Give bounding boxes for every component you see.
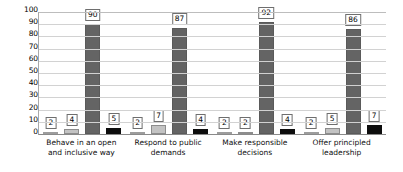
bar[interactable] — [217, 132, 232, 134]
gridline — [39, 36, 386, 37]
y-axis-tick-label: 30 — [14, 91, 38, 99]
gridline — [39, 110, 386, 111]
y-axis-tick-label: 60 — [14, 55, 38, 63]
y-axis-tick-label: 70 — [14, 43, 38, 51]
bar[interactable] — [259, 22, 274, 134]
bar[interactable] — [64, 129, 79, 134]
gridline — [39, 97, 386, 98]
bar[interactable] — [43, 132, 58, 134]
bar[interactable] — [346, 29, 361, 134]
bar[interactable] — [151, 125, 166, 134]
y-axis-tick-label: 90 — [14, 18, 38, 26]
bar-value-label: 4 — [195, 114, 206, 126]
bar[interactable] — [193, 129, 208, 134]
bar[interactable] — [130, 132, 145, 134]
y-axis-tick-label: 100 — [14, 6, 38, 14]
gridline — [39, 122, 386, 123]
gridline — [39, 49, 386, 50]
bar-value-label: 4 — [66, 114, 77, 126]
bar-value-label: 5 — [327, 113, 338, 125]
y-axis-tick-label: 0 — [14, 128, 38, 136]
bar[interactable] — [304, 132, 319, 134]
bar[interactable] — [106, 128, 121, 134]
category-label: Make responsible decisions — [212, 138, 299, 170]
y-axis-tick-label: 80 — [14, 30, 38, 38]
bar-value-label: 87 — [172, 13, 188, 25]
plot-area: 24905278742292425867 — [38, 12, 386, 135]
bar[interactable] — [280, 129, 295, 134]
category-axis-labels: Behave in an open and inclusive wayRespo… — [38, 138, 385, 170]
y-axis-tick-label: 10 — [14, 116, 38, 124]
bar[interactable] — [325, 128, 340, 134]
category-label: Respond to public demands — [125, 138, 212, 170]
gridline — [39, 61, 386, 62]
gridline — [39, 85, 386, 86]
bar-chart: 1009080706050403020100 24905278742292425… — [0, 0, 403, 172]
category-label: Offer principled leadership — [298, 138, 385, 170]
bar-value-label: 7 — [153, 110, 164, 122]
bar-value-label: 7 — [369, 110, 380, 122]
gridline — [39, 12, 386, 13]
gridline — [39, 24, 386, 25]
bar[interactable] — [172, 28, 187, 134]
bar-value-label: 90 — [85, 9, 101, 21]
bar[interactable] — [238, 132, 253, 134]
bar-value-label: 5 — [108, 113, 119, 125]
bar[interactable] — [85, 24, 100, 134]
y-axis-tick-label: 20 — [14, 104, 38, 112]
gridline — [39, 73, 386, 74]
y-axis: 1009080706050403020100 — [14, 6, 38, 134]
bar-value-label: 4 — [282, 114, 293, 126]
category-label: Behave in an open and inclusive way — [38, 138, 125, 170]
bar[interactable] — [367, 125, 382, 134]
y-axis-tick-label: 50 — [14, 67, 38, 75]
y-axis-tick-label: 40 — [14, 79, 38, 87]
